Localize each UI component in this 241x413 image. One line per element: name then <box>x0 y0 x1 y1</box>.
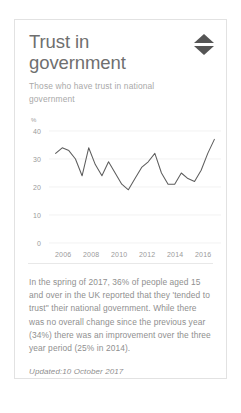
updated-timestamp: Updated:10 October 2017 <box>29 366 212 378</box>
description-text: In the spring of 2017, 36% of people age… <box>29 276 212 355</box>
horizontal-scrollbar-track[interactable] <box>14 381 227 393</box>
sort-updown-icon[interactable] <box>194 34 214 55</box>
line-chart: % 40 30 20 10 0 2006 2008 2010 2012 2014… <box>15 114 226 259</box>
y-tick-10: 10 <box>33 212 41 219</box>
x-tick-2010: 2010 <box>111 251 127 258</box>
card-subtitle: Those who have trust in national governm… <box>29 80 169 106</box>
page-title: Trust in government <box>29 31 179 73</box>
x-tick-2016: 2016 <box>195 251 211 258</box>
x-tick-2012: 2012 <box>139 251 155 258</box>
data-series-line <box>56 139 215 189</box>
x-tick-2006: 2006 <box>55 251 71 258</box>
y-tick-20: 20 <box>33 184 41 191</box>
trust-in-government-card: Trust in government Those who have trust… <box>14 19 227 379</box>
y-tick-40: 40 <box>33 128 41 135</box>
section-divider <box>28 263 213 264</box>
triangle-down-icon <box>194 46 214 55</box>
y-axis-unit: % <box>31 117 37 123</box>
card-header: Trust in government <box>15 20 226 73</box>
y-tick-30: 30 <box>33 156 41 163</box>
triangle-up-icon <box>194 34 214 43</box>
y-tick-0: 0 <box>37 240 41 247</box>
x-tick-2014: 2014 <box>167 251 183 258</box>
x-tick-2008: 2008 <box>83 251 99 258</box>
chart-svg: % 40 30 20 10 0 2006 2008 2010 2012 2014… <box>15 114 227 259</box>
